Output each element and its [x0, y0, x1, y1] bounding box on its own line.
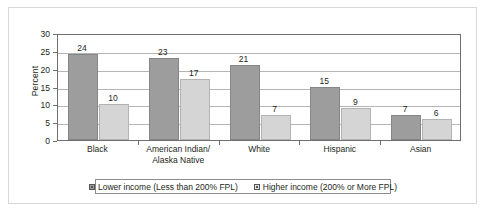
x-axis-category-label: Black: [87, 144, 108, 155]
y-axis-tick-label: 30: [28, 29, 50, 39]
x-axis-tick-mark: [380, 141, 381, 145]
bar-value-label: 6: [434, 108, 439, 118]
legend-item[interactable]: Lower income (Less than 200% FPL): [89, 182, 238, 192]
chart-figure-frame: Percent 051015202530 BlackAmerican India…: [8, 7, 477, 204]
bar-value-label: 10: [108, 93, 117, 103]
bar-lower-income: [391, 115, 421, 140]
gridline: [58, 53, 460, 54]
x-axis-category-label: Hispanic: [323, 144, 356, 155]
x-axis-category-label: American Indian/ Alaska Native: [146, 144, 210, 165]
legend-swatch-icon: [89, 184, 95, 190]
x-axis-category-label: White: [248, 144, 270, 155]
bar-value-label: 15: [320, 76, 329, 86]
bar-value-label: 9: [353, 97, 358, 107]
bar-value-label: 24: [77, 43, 86, 53]
bar-higher-income: [422, 119, 452, 140]
bar-lower-income: [68, 54, 98, 140]
legend-swatch-icon: [254, 184, 260, 190]
bar-higher-income: [180, 79, 210, 140]
bar-lower-income: [310, 87, 340, 141]
bar-lower-income: [230, 65, 260, 140]
bar-value-label: 21: [239, 54, 248, 64]
bar-value-label: 7: [403, 104, 408, 114]
y-axis-tick-label: 10: [28, 100, 50, 110]
plot-area: [57, 34, 461, 141]
y-axis-tick-label: 5: [28, 118, 50, 128]
y-axis-tick-label: 25: [28, 47, 50, 57]
legend-item-label: Lower income (Less than 200% FPL): [98, 182, 238, 192]
bar-value-label: 23: [158, 47, 167, 57]
x-axis-tick-mark: [299, 141, 300, 145]
bar-higher-income: [341, 108, 371, 140]
bar-higher-income: [99, 104, 129, 140]
y-axis-tick-mark: [53, 141, 57, 142]
bar-higher-income: [261, 115, 291, 140]
legend-item-label: Higher income (200% or More FPL): [263, 182, 397, 192]
y-axis-tick-label: 20: [28, 65, 50, 75]
x-axis-category-label: Asian: [410, 144, 431, 155]
legend-item[interactable]: Higher income (200% or More FPL): [254, 182, 397, 192]
grouped-bar-chart: Percent 051015202530 BlackAmerican India…: [9, 8, 478, 205]
y-axis-tick-label: 0: [28, 136, 50, 146]
plot-inner: [58, 35, 460, 140]
x-axis-tick-mark: [219, 141, 220, 145]
bar-value-label: 7: [272, 104, 277, 114]
x-axis-tick-mark: [138, 141, 139, 145]
bar-lower-income: [149, 58, 179, 140]
bar-value-label: 17: [189, 68, 198, 78]
chart-legend: Lower income (Less than 200% FPL)Higher …: [95, 179, 391, 194]
y-axis-tick-label: 15: [28, 83, 50, 93]
